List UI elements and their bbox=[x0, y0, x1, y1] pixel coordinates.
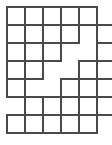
grid-cell bbox=[7, 79, 25, 97]
grid-cell bbox=[43, 115, 61, 133]
grid-cell bbox=[25, 61, 43, 79]
grid-cell bbox=[43, 7, 61, 25]
grid-cell bbox=[25, 43, 43, 61]
grid-cell bbox=[25, 7, 43, 25]
grid-cell bbox=[61, 79, 79, 97]
grid-cell bbox=[43, 25, 61, 43]
grid-cell bbox=[97, 79, 112, 97]
grid-cell bbox=[7, 43, 25, 61]
grid-cell bbox=[43, 43, 61, 61]
grid-cell bbox=[97, 43, 112, 61]
grid-cell bbox=[7, 61, 25, 79]
grid-cell bbox=[97, 25, 112, 43]
grid-cell bbox=[79, 61, 97, 79]
grid-cell bbox=[61, 97, 79, 115]
grid-cell bbox=[25, 115, 43, 133]
grid-cell bbox=[61, 7, 79, 25]
grid-cell bbox=[97, 97, 112, 115]
grid-cell bbox=[43, 97, 61, 115]
grid-cell bbox=[79, 7, 97, 25]
grid-cell bbox=[7, 25, 25, 43]
grid-cell bbox=[79, 79, 97, 97]
grid-svg bbox=[0, 0, 112, 145]
grid-cell bbox=[61, 25, 79, 43]
grid-cell bbox=[97, 61, 112, 79]
grid-cell bbox=[61, 115, 79, 133]
grid-figure bbox=[0, 0, 112, 145]
grid-cell bbox=[25, 25, 43, 43]
grid-cell bbox=[7, 115, 25, 133]
grid-cell bbox=[25, 97, 43, 115]
grid-cell bbox=[79, 97, 97, 115]
grid-cell bbox=[79, 115, 97, 133]
grid-cell bbox=[7, 7, 25, 25]
